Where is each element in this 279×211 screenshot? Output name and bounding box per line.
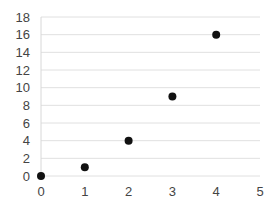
- y-tick-label: 6: [23, 116, 30, 131]
- data-point: [212, 31, 220, 39]
- grid-lines: [41, 17, 260, 176]
- y-tick-label: 8: [23, 98, 30, 113]
- y-tick-label: 0: [23, 169, 30, 184]
- data-point: [81, 163, 89, 171]
- x-tick-label: 0: [37, 184, 44, 199]
- data-point: [125, 137, 133, 145]
- x-tick-label: 1: [81, 184, 88, 199]
- y-tick-label: 16: [16, 27, 30, 42]
- data-point: [168, 93, 176, 101]
- x-tick-label: 4: [213, 184, 220, 199]
- x-tick-label: 2: [125, 184, 132, 199]
- x-tick-label: 3: [169, 184, 176, 199]
- y-axis-tick-labels: 024681012141618: [16, 10, 30, 184]
- data-point: [37, 172, 45, 180]
- y-tick-label: 12: [16, 63, 30, 78]
- x-axis-tick-labels: 012345: [37, 184, 263, 199]
- y-tick-label: 14: [16, 45, 30, 60]
- x-tick-label: 5: [256, 184, 263, 199]
- y-tick-label: 18: [16, 10, 30, 25]
- y-tick-label: 4: [23, 133, 30, 148]
- y-tick-label: 2: [23, 151, 30, 166]
- scatter-chart: 024681012141618 012345: [0, 0, 279, 211]
- y-tick-label: 10: [16, 80, 30, 95]
